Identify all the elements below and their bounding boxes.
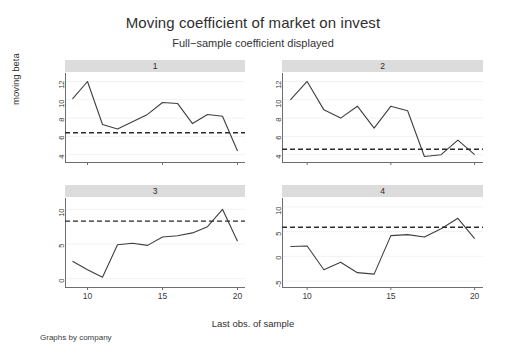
graph-root: Moving coefficient of market on invest F… [0,0,506,363]
x-axis-title: Last obs. of sample [0,318,506,329]
chart-title: Moving coefficient of market on invest [0,14,506,31]
panel-2: 2 [282,60,483,172]
panel-1: 1 [65,60,245,172]
panel-3: 3 [65,185,245,297]
chart-subtitle: Full−sample coefficient displayed [0,37,506,49]
plot-area-2 [282,72,483,172]
series-line-1 [73,81,238,151]
plot-area-1 [65,72,245,172]
panel-header-1: 1 [65,60,245,72]
panel-header-3: 3 [65,185,245,197]
panel-grid: 468101214681012205101015203-505101015204 [0,58,506,308]
panel-header-4: 4 [282,185,483,197]
panel-4: 4 [282,185,483,297]
panel-header-2: 2 [282,60,483,72]
plot-area-3 [65,197,245,297]
series-line-3 [73,209,238,277]
plot-area-4 [282,197,483,297]
series-line-2 [290,81,474,156]
graph-note: Graphs by company [40,333,112,342]
